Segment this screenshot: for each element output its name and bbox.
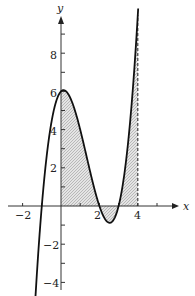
y-axis-label: y	[56, 2, 64, 15]
y-tick-label-6: 6	[50, 87, 57, 100]
shaded-area	[61, 15, 138, 223]
x-tick-label-2: 2	[94, 209, 101, 222]
x-axis-arrow-icon	[172, 203, 179, 209]
x-tick-label-4: 4	[134, 209, 141, 222]
y-tick-label-4: 4	[50, 125, 57, 138]
y-tick-label-2: 2	[50, 162, 57, 175]
y-tick-label-neg4: −4	[43, 277, 59, 290]
x-tick-label-neg2: −2	[15, 209, 31, 222]
y-tick-label-8: 8	[50, 49, 57, 62]
y-tick-label-neg2: −2	[43, 239, 59, 252]
y-axis-arrow-icon	[58, 16, 64, 24]
x-axis-label: x	[183, 200, 190, 213]
function-plot: x y −2 2 4 8 6 4 2 −2 −4	[0, 0, 195, 296]
